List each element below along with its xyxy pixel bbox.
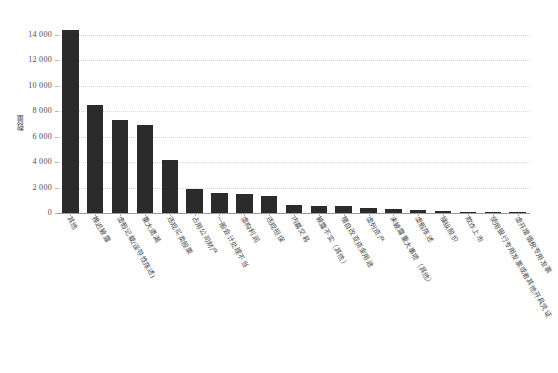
y-axis-tick-label: 12 000 bbox=[8, 55, 52, 64]
gridline bbox=[58, 111, 530, 112]
y-axis-tick-label: 8 000 bbox=[8, 106, 52, 115]
x-axis-tick-mark bbox=[170, 213, 171, 216]
bar[interactable] bbox=[211, 193, 227, 213]
x-axis-tick-label: 虚假陈述 bbox=[413, 215, 434, 244]
y-axis-tick-label: 2 000 bbox=[8, 183, 52, 192]
y-axis-tick-label: 14 000 bbox=[8, 30, 52, 39]
bar[interactable] bbox=[186, 189, 202, 213]
gridline bbox=[58, 188, 530, 189]
x-axis-tick-mark bbox=[145, 213, 146, 216]
x-axis-tick-label: 推迟披露 bbox=[90, 215, 111, 244]
bar[interactable] bbox=[335, 206, 351, 213]
x-axis-tick-label: 其他 bbox=[65, 215, 79, 231]
gridline bbox=[58, 162, 530, 163]
gridline bbox=[58, 35, 530, 36]
bar[interactable] bbox=[286, 205, 302, 213]
x-axis-tick-label: 重大遗漏 bbox=[140, 215, 161, 244]
bar[interactable] bbox=[162, 160, 178, 213]
x-axis-tick-label: 虚列资产 bbox=[364, 215, 385, 244]
x-axis-tick-label: 内幕交易 bbox=[289, 215, 310, 244]
x-axis-tick-mark bbox=[269, 213, 270, 216]
x-axis-tick-label: 操纵股价 bbox=[438, 215, 459, 244]
y-axis-tick-label: 6 000 bbox=[8, 132, 52, 141]
y-axis-tick-label: 4 000 bbox=[8, 157, 52, 166]
x-axis-tick-mark bbox=[468, 213, 469, 216]
x-axis-tick-mark bbox=[443, 213, 444, 216]
x-axis-tick-label: 违规担保 bbox=[264, 215, 285, 244]
x-axis-tick-mark bbox=[493, 213, 494, 216]
bar[interactable] bbox=[112, 120, 128, 213]
x-axis-tick-mark bbox=[195, 213, 196, 216]
gridline bbox=[58, 60, 530, 61]
plot-area bbox=[58, 22, 530, 213]
x-axis-tick-label: 虚构利润 bbox=[239, 215, 260, 244]
x-axis-label-group: 其他推迟披露虚假记载(误导性陈述)重大遗漏违规买卖股票占用公司财产一般会计处理不… bbox=[58, 215, 530, 370]
x-axis-tick-mark bbox=[120, 213, 121, 216]
x-axis-tick-mark bbox=[344, 213, 345, 216]
x-axis-tick-label: 未披露重大事项（其他） bbox=[388, 215, 435, 288]
x-axis-tick-mark bbox=[319, 213, 320, 216]
gridline bbox=[58, 86, 530, 87]
y-axis-tick-label: 0 bbox=[8, 208, 52, 217]
bar[interactable] bbox=[137, 125, 153, 213]
x-axis-tick-label: 欺诈上市 bbox=[463, 215, 484, 244]
gridline bbox=[58, 137, 530, 138]
x-axis-tick-mark bbox=[418, 213, 419, 216]
x-axis-tick-mark bbox=[244, 213, 245, 216]
x-axis-tick-mark bbox=[70, 213, 71, 216]
x-axis-tick-mark bbox=[393, 213, 394, 216]
bar[interactable] bbox=[261, 196, 277, 213]
x-axis-tick-mark bbox=[369, 213, 370, 216]
x-axis-tick-mark bbox=[219, 213, 220, 216]
y-axis-tick-label: 10 000 bbox=[8, 81, 52, 90]
bar[interactable] bbox=[62, 30, 78, 213]
x-axis-tick-mark bbox=[95, 213, 96, 216]
x-axis-tick-mark bbox=[294, 213, 295, 216]
bar[interactable] bbox=[87, 105, 103, 213]
bar-chart: 数量 02 0004 0006 0008 00010 00012 00014 0… bbox=[0, 0, 558, 373]
x-axis-tick-mark bbox=[518, 213, 519, 216]
x-axis-tick-label: 占用公司财产 bbox=[190, 215, 219, 256]
x-axis-tick-label: 违规买卖股票 bbox=[165, 215, 194, 256]
bar[interactable] bbox=[236, 194, 252, 213]
bar[interactable] bbox=[311, 206, 327, 213]
